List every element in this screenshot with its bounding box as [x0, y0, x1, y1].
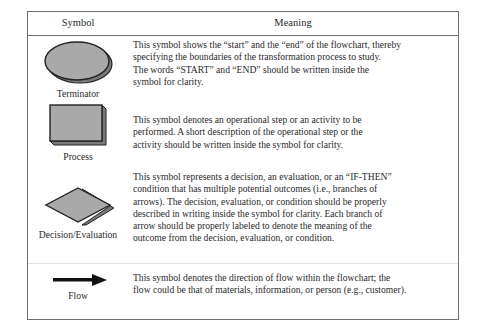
table-header: Symbol Meaning — [28, 12, 458, 36]
meaning-line: This symbol denotes an operational step … — [133, 114, 450, 126]
symbol-cell: Decision/Evaluation — [28, 171, 128, 263]
symbol-label-process: Process — [28, 151, 128, 162]
symbol-cell: Process — [28, 103, 128, 171]
meaning-line: symbol for clarity. — [133, 76, 450, 88]
meaning-line: activity should be written inside the sy… — [133, 139, 450, 151]
symbol-cell: Terminator — [28, 36, 128, 103]
meaning-line: described in writing inside the symbol f… — [133, 208, 450, 220]
symbol-label-decision: Decision/Evaluation — [25, 229, 131, 240]
meaning-line: condition that has multiple potential ou… — [133, 183, 450, 195]
meaning-line: This symbol shows the “start” and the “e… — [133, 39, 450, 51]
symbol-label-flow: Flow — [28, 290, 128, 301]
process-rectangle-icon — [49, 103, 111, 147]
meaning-line: The words “START” and “END” should be wr… — [133, 64, 450, 76]
table-row-flow: Flow This symbol denotes the direction o… — [28, 264, 458, 320]
symbol-label-terminator: Terminator — [28, 88, 128, 99]
table-row-process: Process This symbol denotes an operation… — [28, 103, 458, 171]
meaning-cell: This symbol shows the “start” and the “e… — [133, 39, 450, 88]
meaning-cell: This symbol represents a decision, an ev… — [133, 171, 450, 245]
meaning-line: This symbol denotes the direction of flo… — [133, 272, 450, 284]
meaning-line: This symbol represents a decision, an ev… — [133, 171, 450, 183]
header-symbol: Symbol — [28, 17, 128, 28]
table-row-decision: Decision/Evaluation This symbol represen… — [28, 171, 458, 263]
meaning-line: specifying the boundaries of the transfo… — [133, 51, 450, 63]
meaning-line: arrows). The decision, evaluation, or co… — [133, 196, 450, 208]
meaning-cell: This symbol denotes an operational step … — [133, 114, 450, 151]
decision-diamond-icon — [44, 186, 116, 226]
meaning-line: outcome from the decision, evaluation, o… — [133, 232, 450, 244]
meaning-line: flow could be that of materials, informa… — [133, 284, 450, 296]
flowchart-symbols-table: Symbol Meaning Terminator This symbol sh… — [27, 11, 459, 320]
symbol-cell: Flow — [28, 264, 128, 320]
meaning-line: performed. A short description of the op… — [133, 126, 450, 138]
meaning-line: arrow should be properly labeled to deno… — [133, 220, 450, 232]
flow-arrow-icon — [52, 273, 108, 287]
header-meaning: Meaning — [128, 17, 458, 28]
table-row-terminator: Terminator This symbol shows the “start”… — [28, 36, 458, 103]
meaning-cell: This symbol denotes the direction of flo… — [133, 272, 450, 297]
terminator-oval-icon — [42, 40, 114, 85]
